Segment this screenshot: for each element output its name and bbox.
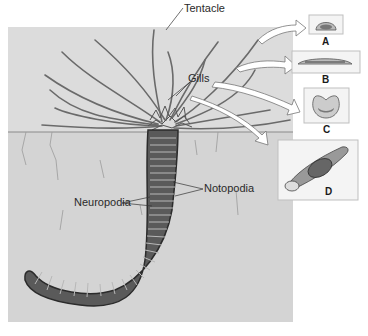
label-neuropodia: Neuropodia: [74, 196, 131, 208]
diagram-illustration: [0, 0, 368, 336]
panel-B-box: [292, 51, 360, 73]
panel-letter-B: B: [322, 74, 329, 85]
panel-letter-C: C: [323, 124, 330, 135]
panel-letter-D: D: [325, 186, 332, 197]
label-notopodia: Notopodia: [204, 182, 254, 194]
label-gills: Gills: [188, 72, 209, 84]
panel-letter-A: A: [322, 36, 329, 47]
label-tentacle: Tentacle: [184, 2, 225, 14]
panel-C-box: [304, 88, 349, 123]
polychaete-worm-diagram: Tentacle Gills Neuropodia Notopodia A B …: [0, 0, 368, 336]
panel-A-box: [309, 15, 343, 34]
panel-D-box: [278, 140, 358, 200]
